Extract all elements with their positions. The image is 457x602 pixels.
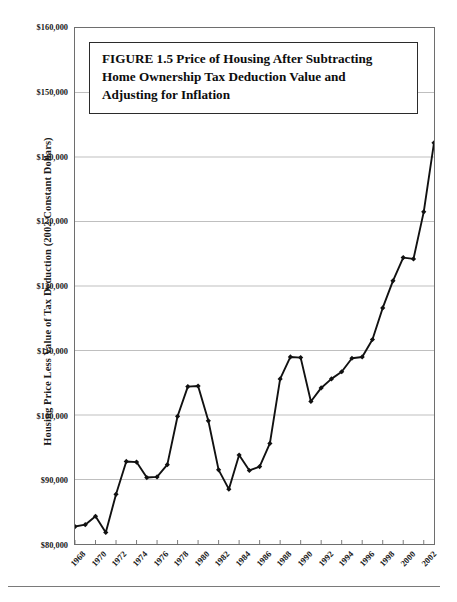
x-tick-label: 2002 — [419, 549, 438, 568]
data-point-marker — [206, 418, 211, 423]
x-tick-label: 1970 — [89, 549, 108, 568]
y-tick-label: $150,000 — [37, 87, 68, 96]
x-tick-label: 1976 — [151, 549, 170, 568]
y-tick-label: $100,000 — [37, 411, 68, 420]
y-tick-label: $140,000 — [37, 152, 68, 161]
data-point-marker — [196, 383, 201, 388]
figure-title-line: FIGURE 1.5 Price of Housing After Subtra… — [102, 50, 407, 68]
data-point-marker — [380, 305, 385, 310]
x-tick-label: 1992 — [316, 549, 335, 568]
y-tick-label: $120,000 — [37, 282, 68, 291]
data-point-marker — [124, 459, 129, 464]
data-line — [75, 143, 434, 533]
y-tick-label: $110,000 — [37, 346, 68, 355]
x-tick-label: 1982 — [213, 549, 232, 568]
data-markers — [75, 140, 434, 535]
data-point-marker — [421, 209, 426, 214]
data-point-marker — [411, 256, 416, 261]
x-tick-label: 1980 — [192, 549, 211, 568]
footer-caption — [9, 591, 439, 600]
footer-divider — [8, 586, 440, 587]
x-tick-label: 1990 — [295, 549, 314, 568]
figure-title-line: Home Ownership Tax Deduction Value and — [102, 68, 407, 86]
x-tick-label: 1974 — [130, 549, 149, 568]
x-tick-label: 1996 — [357, 549, 376, 568]
gridlines — [75, 93, 434, 480]
data-point-marker — [185, 384, 190, 389]
data-point-marker — [113, 492, 118, 497]
x-axis-ticks — [75, 540, 424, 544]
x-tick-label: 2000 — [398, 549, 417, 568]
x-tick-label: 1998 — [378, 549, 397, 568]
data-point-marker — [175, 414, 180, 419]
x-tick-label: 1986 — [254, 549, 273, 568]
data-point-marker — [75, 524, 78, 529]
data-point-marker — [431, 140, 434, 145]
x-tick-label: 1984 — [233, 549, 252, 568]
x-tick-label: 1972 — [110, 549, 129, 568]
y-tick-label: $160,000 — [37, 23, 68, 32]
x-axis-tick-labels: 1968197019721974197619781980198219841986… — [74, 545, 435, 590]
figure-title-line: Adjusting for Inflation — [102, 86, 407, 104]
x-tick-label: 1994 — [336, 549, 355, 568]
figure-page: Housing Price Less Value of Tax Deductio… — [0, 0, 457, 602]
y-tick-label: $130,000 — [37, 217, 68, 226]
y-tick-label: $90,000 — [41, 476, 68, 485]
x-tick-label: 1988 — [275, 549, 294, 568]
y-tick-label: $80,000 — [41, 541, 68, 550]
x-tick-label: 1978 — [171, 549, 190, 568]
y-axis-tick-labels: $160,000$150,000$140,000$130,000$120,000… — [0, 0, 74, 602]
data-point-marker — [298, 355, 303, 360]
figure-title-box: FIGURE 1.5 Price of Housing After Subtra… — [89, 42, 418, 114]
